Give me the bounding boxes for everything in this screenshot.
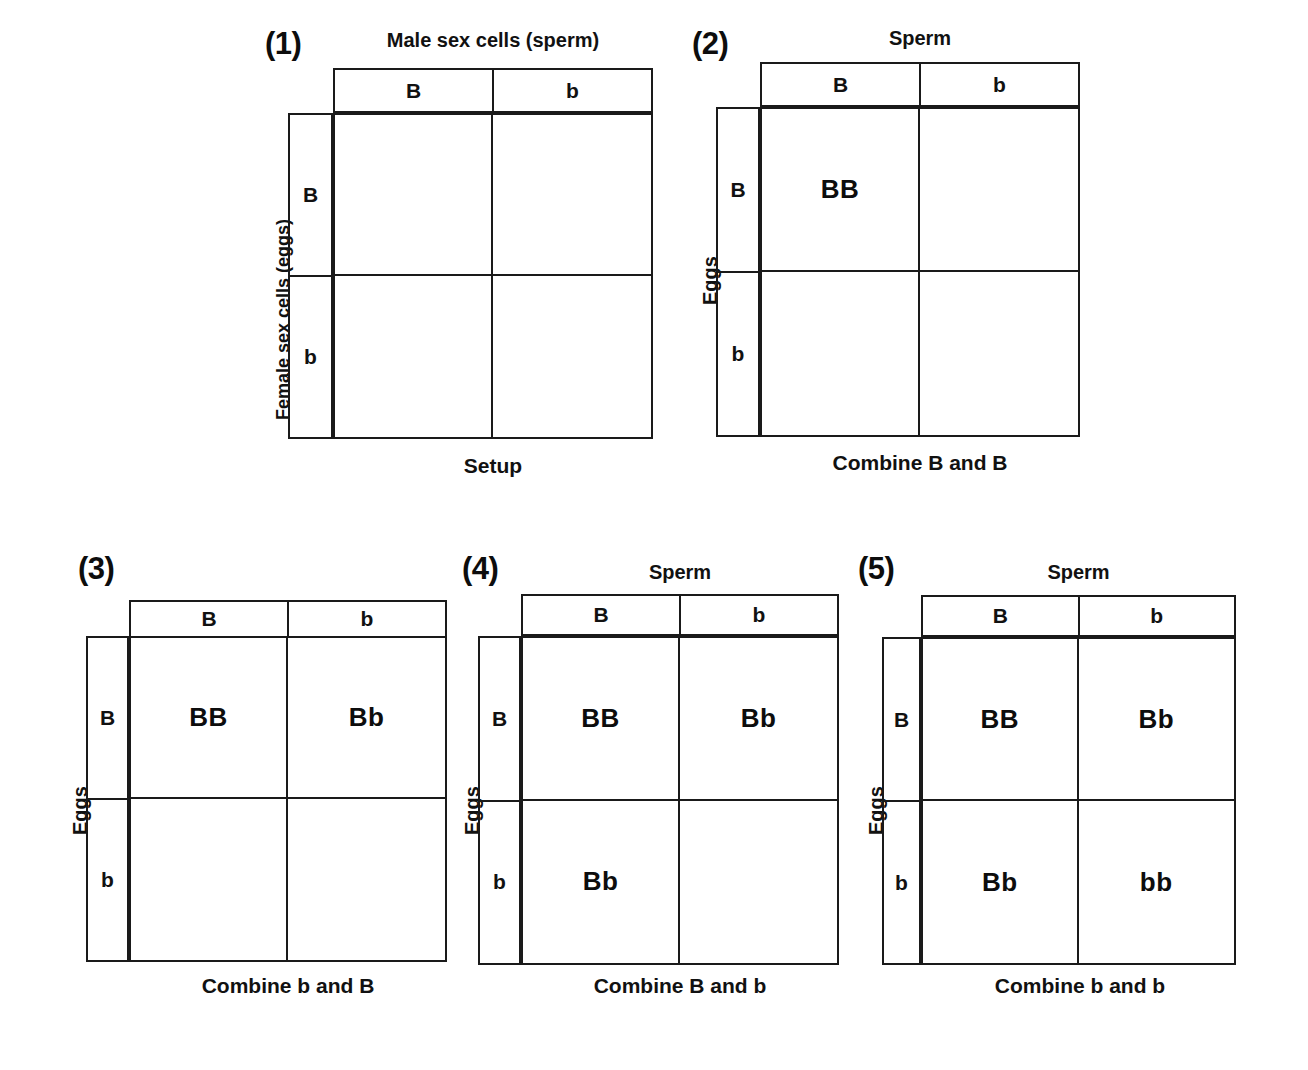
- punnett-cell-2-bb: [920, 272, 1078, 435]
- top-axis-label-1: Male sex cells (sperm): [333, 30, 653, 50]
- eggs-header-cell-b-5: b: [884, 800, 919, 963]
- eggs-header-cell-B-2: B: [718, 109, 758, 271]
- punnett-cell-5-Bb: Bb: [1079, 639, 1235, 801]
- punnett-cell-2-BB: BB: [762, 109, 920, 272]
- bottom-caption-5: Combine b and b: [900, 975, 1260, 996]
- top-axis-label-5: Sperm: [921, 562, 1236, 582]
- eggs-header-strip-5: B b: [882, 637, 921, 965]
- punnett-cell-4-BB: BB: [523, 638, 680, 801]
- sperm-header-strip-1: B b: [333, 68, 653, 113]
- eggs-header-cell-B-4: B: [480, 638, 519, 800]
- eggs-header-strip-2: B b: [716, 107, 760, 437]
- punnett-grid-5: BB Bb Bb bb: [921, 637, 1236, 965]
- bottom-caption-3: Combine b and B: [108, 975, 468, 996]
- punnett-grid-4: BB Bb Bb: [521, 636, 839, 965]
- sperm-header-cell-B-3: B: [131, 602, 287, 636]
- punnett-cell-1-bB: [335, 276, 493, 437]
- sperm-header-cell-B-2: B: [762, 64, 919, 105]
- sperm-header-cell-b-5: b: [1078, 597, 1235, 635]
- punnett-cell-3-Bb: Bb: [288, 638, 445, 799]
- punnett-grid-3: BB Bb: [129, 636, 447, 962]
- eggs-header-strip-3: B b: [86, 636, 129, 962]
- punnett-cell-5-bB: Bb: [923, 801, 1079, 963]
- sperm-header-cell-B-1: B: [335, 70, 492, 111]
- punnett-cell-2-bB: [762, 272, 920, 435]
- step-number-2: (2): [692, 28, 728, 59]
- eggs-header-cell-b-4: b: [480, 800, 519, 964]
- punnett-cell-3-BB: BB: [131, 638, 288, 799]
- eggs-header-strip-4: B b: [478, 636, 521, 965]
- eggs-header-strip-1: B b: [288, 113, 333, 439]
- punnett-cell-3-bB: [131, 799, 288, 960]
- sperm-header-cell-b-4: b: [679, 596, 837, 634]
- punnett-cell-1-bb: [493, 276, 651, 437]
- eggs-header-cell-b-3: b: [88, 798, 127, 960]
- eggs-header-cell-B-1: B: [290, 115, 331, 275]
- sperm-header-cell-B-4: B: [523, 596, 679, 634]
- punnett-grid-1: [333, 113, 653, 439]
- punnett-cell-5-BB: BB: [923, 639, 1079, 801]
- eggs-header-cell-b-1: b: [290, 275, 331, 437]
- bottom-caption-1: Setup: [333, 455, 653, 476]
- top-axis-label-4: Sperm: [521, 562, 839, 582]
- step-number-5: (5): [858, 553, 894, 584]
- bottom-caption-4: Combine B and b: [500, 975, 860, 996]
- punnett-cell-5-bb: bb: [1079, 801, 1235, 963]
- punnett-square-figure: (1) Male sex cells (sperm) Female sex ce…: [0, 0, 1308, 1070]
- eggs-header-cell-b-2: b: [718, 271, 758, 435]
- step-number-1: (1): [265, 28, 301, 59]
- eggs-header-cell-B-3: B: [88, 638, 127, 798]
- top-axis-label-2: Sperm: [760, 28, 1080, 48]
- step-number-4: (4): [462, 553, 498, 584]
- sperm-header-cell-b-3: b: [287, 602, 445, 636]
- punnett-cell-4-Bb: Bb: [680, 638, 837, 801]
- sperm-header-strip-3: B b: [129, 600, 447, 638]
- sperm-header-cell-b-2: b: [919, 64, 1078, 105]
- punnett-cell-1-Bb: [493, 115, 651, 276]
- bottom-caption-2: Combine B and B: [740, 452, 1100, 473]
- punnett-cell-3-bb: [288, 799, 445, 960]
- step-number-3: (3): [78, 553, 114, 584]
- sperm-header-strip-2: B b: [760, 62, 1080, 107]
- sperm-header-cell-b-1: b: [492, 70, 651, 111]
- punnett-cell-2-Bb: [920, 109, 1078, 272]
- sperm-header-cell-B-5: B: [923, 597, 1078, 635]
- eggs-header-cell-B-5: B: [884, 639, 919, 800]
- punnett-cell-1-BB: [335, 115, 493, 276]
- punnett-grid-2: BB: [760, 107, 1080, 437]
- punnett-cell-4-bB: Bb: [523, 801, 680, 964]
- sperm-header-strip-4: B b: [521, 594, 839, 636]
- sperm-header-strip-5: B b: [921, 595, 1236, 637]
- punnett-cell-4-bb: [680, 801, 837, 964]
